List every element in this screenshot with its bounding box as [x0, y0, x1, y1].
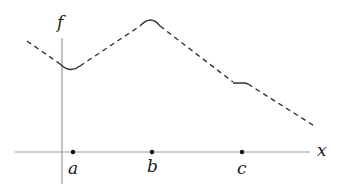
smooth-maximum-at-b	[140, 20, 160, 26]
smooth-minimum-at-a	[60, 64, 80, 70]
function-label: f	[57, 14, 63, 31]
function-graph: f x a b c	[0, 0, 343, 185]
graph-canvas	[0, 0, 343, 185]
flat-segment-at-c	[233, 83, 248, 84]
dashed-segment-a-to-b	[80, 26, 140, 66]
dashed-segment-right	[248, 84, 316, 127]
point-a	[71, 150, 75, 154]
dashed-segment-left	[27, 41, 60, 64]
point-a-label: a	[68, 160, 78, 177]
point-b-label: b	[147, 158, 158, 175]
point-c-label: c	[237, 160, 247, 177]
point-c	[240, 150, 244, 154]
dashed-segment-b-to-c	[160, 26, 233, 82]
point-b	[150, 150, 154, 154]
x-axis-label: x	[317, 142, 327, 159]
